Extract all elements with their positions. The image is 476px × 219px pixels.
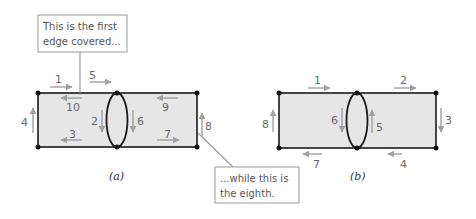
edge-label: 5 — [89, 69, 96, 82]
edge-label: 1 — [314, 74, 321, 87]
euler-path-figure: 1 5 10 9 4 2 6 8 3 7 (a) This is the fir… — [0, 0, 476, 219]
edge-label: 7 — [164, 128, 171, 141]
loop-edge-a — [107, 93, 128, 147]
edge-label: 3 — [69, 128, 76, 141]
callout-first-edge: This is the first edge covered... — [38, 15, 127, 93]
edge-label: 9 — [162, 101, 169, 114]
edge-label: 8 — [262, 118, 269, 131]
caption-b: (b) — [350, 170, 366, 183]
edge-label: 8 — [205, 120, 212, 133]
callout-first-line2: edge covered... — [43, 36, 121, 47]
edge-label: 2 — [91, 115, 98, 128]
edge-label: 3 — [445, 114, 452, 127]
edge-label: 7 — [313, 158, 320, 171]
caption-a: (a) — [109, 170, 124, 183]
callout-eighth-line1: ...while this is — [220, 173, 288, 184]
edge-label: 4 — [21, 116, 28, 129]
loop-edge-b — [347, 93, 368, 148]
edge-label: 6 — [331, 114, 338, 127]
edge-label: 2 — [400, 74, 407, 87]
callout-first-line1: This is the first — [42, 21, 117, 32]
diagram-a: 1 5 10 9 4 2 6 8 3 7 (a) — [21, 69, 212, 183]
edge-label: 5 — [376, 121, 383, 134]
edge-label: 6 — [137, 115, 144, 128]
edge-label: 1 — [55, 73, 62, 86]
callout-eighth-line2: the eighth. — [220, 188, 275, 199]
edge-label: 10 — [66, 101, 80, 114]
edge-label: 4 — [400, 158, 407, 171]
